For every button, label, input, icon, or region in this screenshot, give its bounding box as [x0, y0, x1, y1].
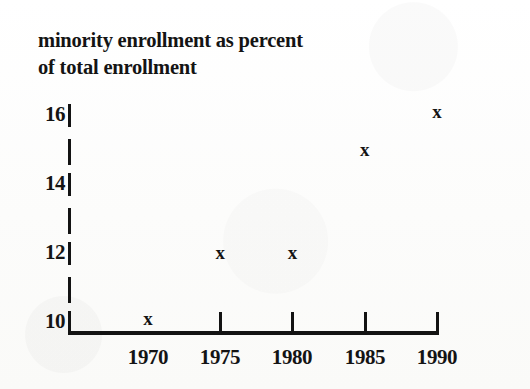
x-axis-tick-1975 [219, 312, 222, 333]
x-axis-tick-1980 [291, 312, 294, 333]
x-axis-tick-1990 [436, 312, 439, 333]
y-axis-segment-11 [68, 277, 71, 303]
y-axis-segment-16 [68, 104, 71, 127]
x-axis-label-1990: 1990 [417, 345, 457, 370]
data-point-marker: x [360, 139, 370, 158]
y-axis-segment-12 [68, 242, 71, 265]
chart-title-line-2: of total enrollment [38, 56, 197, 79]
data-point-marker: x [143, 308, 153, 327]
chart-title-line-1: minority enrollment as percent [38, 29, 303, 52]
x-axis-label-1980: 1980 [272, 345, 312, 370]
x-axis-label-1975: 1975 [200, 345, 240, 370]
y-axis-label-10: 10 [31, 309, 65, 334]
chart-figure: minority enrollment as percent of total … [0, 0, 530, 389]
y-axis-label-16: 16 [31, 102, 65, 127]
data-point-marker: x [216, 243, 226, 262]
x-axis-label-1970: 1970 [128, 345, 168, 370]
x-axis-tick-1985 [364, 312, 367, 333]
y-axis-segment-14 [68, 173, 71, 196]
y-axis-label-14: 14 [31, 171, 65, 196]
x-axis-line [69, 331, 439, 335]
data-point-marker: x [432, 101, 442, 120]
y-axis-segment-15 [68, 139, 71, 165]
y-axis-label-12: 12 [31, 240, 65, 265]
x-axis-label-1985: 1985 [345, 345, 385, 370]
y-axis-segment-13 [68, 208, 71, 234]
data-point-marker: x [288, 243, 298, 262]
